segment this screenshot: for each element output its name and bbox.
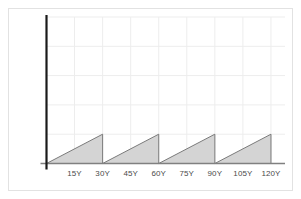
chart-figure: 15Y30Y45Y60Y75Y90Y105Y120Y <box>0 0 301 199</box>
vertical-gridlines <box>75 17 271 164</box>
x-tick-label-45: 45Y <box>123 170 138 178</box>
x-tick-label-30: 30Y <box>95 170 110 178</box>
x-tick-label-75: 75Y <box>180 170 195 178</box>
x-tick-label-15: 15Y <box>67 170 82 178</box>
x-tick-label-60: 60Y <box>151 170 166 178</box>
horizontal-gridlines <box>47 17 286 134</box>
x-tick-label-105: 105Y <box>233 170 252 178</box>
x-tick-label-90: 90Y <box>208 170 223 178</box>
x-tick-label-120: 120Y <box>261 170 280 178</box>
